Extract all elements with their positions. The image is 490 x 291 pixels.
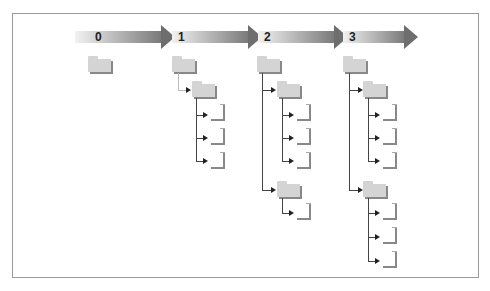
file-icon: [383, 128, 397, 145]
file-icon: [211, 128, 225, 145]
arrow-tip-icon: [375, 210, 380, 216]
folder-icon: [257, 56, 281, 73]
file-icon: [383, 251, 397, 268]
folder-icon: [172, 56, 196, 73]
folder-icon: [277, 181, 301, 198]
stage-label: 0: [95, 30, 102, 44]
arrow-tip-icon: [271, 87, 276, 93]
connector-line: [368, 98, 369, 162]
connector-line: [368, 198, 369, 262]
connector-line: [196, 98, 197, 162]
file-icon: [297, 104, 311, 121]
stage-arrow-2: 2: [258, 27, 348, 47]
folder-icon: [277, 81, 301, 98]
arrow-tip-icon: [203, 158, 208, 164]
arrow-head-icon: [404, 25, 418, 49]
folder-icon: [343, 56, 367, 73]
file-icon: [383, 104, 397, 121]
arrow-tip-icon: [289, 112, 294, 118]
arrow-tip-icon: [186, 87, 191, 93]
arrow-tip-icon: [375, 234, 380, 240]
folder-icon: [363, 81, 387, 98]
connector-line: [282, 98, 283, 162]
folder-icon: [88, 56, 112, 73]
connector-line: [178, 73, 179, 90]
arrow-tip-icon: [289, 210, 294, 216]
file-icon: [297, 203, 311, 220]
file-icon: [211, 104, 225, 121]
stage-arrow-1: 1: [172, 27, 262, 47]
file-icon: [211, 152, 225, 169]
arrow-tip-icon: [203, 135, 208, 141]
stage-arrow-0: 0: [75, 27, 175, 47]
arrow-tip-icon: [375, 135, 380, 141]
file-icon: [383, 227, 397, 244]
stage-label: 2: [264, 30, 271, 44]
arrow-tip-icon: [375, 258, 380, 264]
stage-arrow-3: 3: [343, 27, 418, 47]
file-icon: [383, 152, 397, 169]
arrow-tip-icon: [375, 158, 380, 164]
file-icon: [297, 128, 311, 145]
file-icon: [297, 152, 311, 169]
file-icon: [383, 203, 397, 220]
arrow-tip-icon: [289, 158, 294, 164]
folder-icon: [192, 81, 216, 98]
arrow-tip-icon: [375, 112, 380, 118]
folder-icon: [363, 181, 387, 198]
arrow-tip-icon: [271, 187, 276, 193]
arrow-tip-icon: [289, 135, 294, 141]
diagram-frame: [12, 13, 479, 278]
connector-line: [178, 90, 186, 91]
stage-label: 3: [349, 30, 356, 44]
connector-line: [282, 198, 283, 213]
stage-label: 1: [178, 30, 185, 44]
arrow-tip-icon: [203, 112, 208, 118]
